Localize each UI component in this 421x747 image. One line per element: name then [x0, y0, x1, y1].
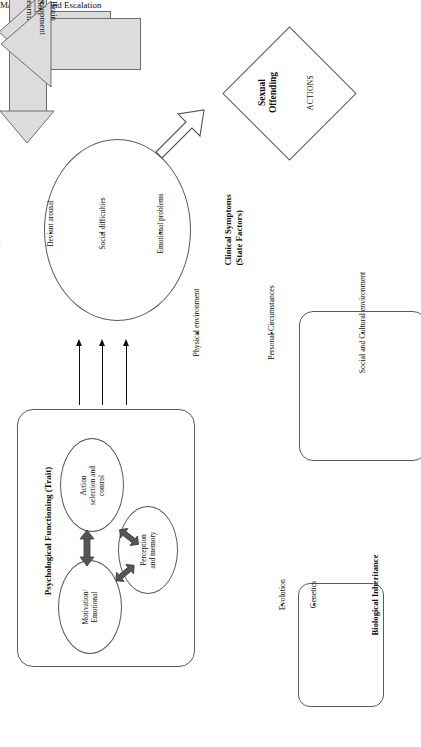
- arrowhead-icon: [0, 110, 55, 144]
- arrowhead-icon: [123, 339, 129, 346]
- list-item: Emotional problems •: [130, 219, 190, 237]
- arrow-trait-to-state-2: [102, 345, 103, 405]
- sexual-offending-subtitle: ACTIONS: [307, 74, 316, 109]
- ecological-niche-list: Social and Cultural environment • Person…: [163, 318, 413, 337]
- arrowhead-icon: [76, 339, 82, 346]
- sexual-offending-title: Sexual Offending: [257, 71, 278, 112]
- sub-node-action-selection: Action selection and control: [60, 438, 124, 532]
- arrowhead-icon: [99, 339, 105, 346]
- arrow-shaft: [48, 18, 141, 70]
- arrow-trait-to-state-1: [79, 345, 80, 405]
- list-item: Physical environment •: [163, 318, 231, 337]
- biological-inheritance-title: Biological Inheritance: [370, 555, 380, 636]
- node-biological-inheritance: Biological Inheritance Genetics • Evolut…: [298, 583, 384, 707]
- list-item: Social difficulties •: [76, 219, 128, 237]
- node-clinical-symptoms: Clinical Symptoms (State Factors) Emotio…: [44, 139, 191, 321]
- arrow-trait-to-state-3: [126, 345, 127, 405]
- psychological-functioning-title: Psychological Functioning (Trait): [0, 526, 84, 536]
- node-sexual-offending: Sexual Offending ACTIONS: [222, 26, 354, 158]
- node-ecological-niche: Ecological Niche (Proximal and Distal) S…: [299, 311, 421, 461]
- clinical-symptoms-list: Emotional problems • Social difficulties…: [0, 219, 190, 237]
- list-item: Social and Cultural environment •: [312, 318, 414, 337]
- list-item: Cognitive distortion •: [0, 219, 25, 237]
- clinical-symptoms-heading: Clinical Symptoms (State Factors): [223, 194, 245, 265]
- list-item: Evolution •: [267, 590, 298, 609]
- list-item: Deviant arousal •: [27, 219, 74, 237]
- list-item: Genetics •: [300, 590, 327, 609]
- arrow-action-to-perception: [114, 522, 144, 556]
- node-psychological-functioning: Psychological Functioning (Trait) Action…: [17, 409, 195, 667]
- biological-inheritance-list: Genetics • Evolution •: [267, 590, 328, 609]
- arrow-action-to-motivation: [76, 528, 98, 572]
- arrow-motivation-to-perception: [110, 558, 140, 592]
- list-item: Personal Circumstances •: [234, 318, 309, 337]
- diagram-canvas: Sexual Offending ACTIONS Clinical Sympto…: [0, 0, 421, 747]
